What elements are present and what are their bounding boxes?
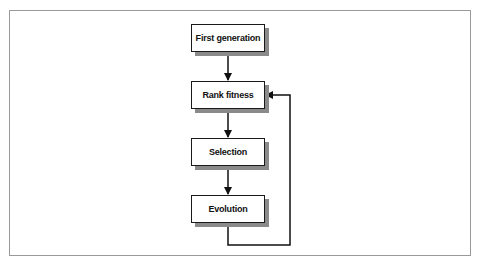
node-evolution: Evolution	[191, 195, 265, 223]
node-label: Evolution	[208, 204, 247, 214]
node-rank-fitness: Rank fitness	[191, 81, 265, 109]
node-selection: Selection	[191, 138, 265, 166]
node-first-generation: First generation	[191, 24, 265, 52]
node-label: First generation	[196, 33, 261, 43]
node-label: Rank fitness	[202, 90, 253, 100]
node-label: Selection	[209, 147, 247, 157]
